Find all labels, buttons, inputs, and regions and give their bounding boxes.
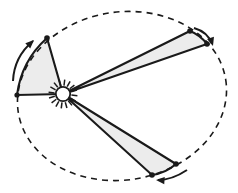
elliptical-orbit	[5, 0, 238, 193]
orbit-node-left	[14, 92, 19, 97]
sectors-layer	[17, 31, 207, 175]
sun-ray-icon	[65, 102, 67, 108]
sector-lower-right	[63, 94, 176, 175]
orbit-node-upper-right-b	[204, 41, 210, 47]
kepler-second-law-diagram	[0, 0, 238, 193]
sun-ray-icon	[52, 99, 57, 103]
orbit-node-upper-right-a	[187, 28, 193, 34]
sun-ray-icon	[49, 96, 55, 98]
orbit-node-lower-right-b	[149, 172, 155, 178]
orbit-layer	[5, 0, 238, 193]
sun-ray-icon	[67, 81, 70, 86]
sector-upper-right	[63, 31, 207, 94]
sun-ray-icon	[61, 102, 62, 108]
diagram-canvas	[0, 0, 238, 193]
orbit-node-upper-left	[44, 35, 50, 41]
sun-disk-icon	[56, 87, 70, 101]
sun-ray-icon	[56, 101, 59, 106]
sector-upper-left	[17, 38, 63, 95]
orbit-node-lower-right-a	[173, 161, 179, 167]
sun-ray-icon	[49, 92, 55, 93]
sun-ray-icon	[71, 95, 77, 96]
sun-ray-icon	[64, 80, 65, 86]
motion-arrow-lower-right-head-icon	[156, 177, 165, 184]
